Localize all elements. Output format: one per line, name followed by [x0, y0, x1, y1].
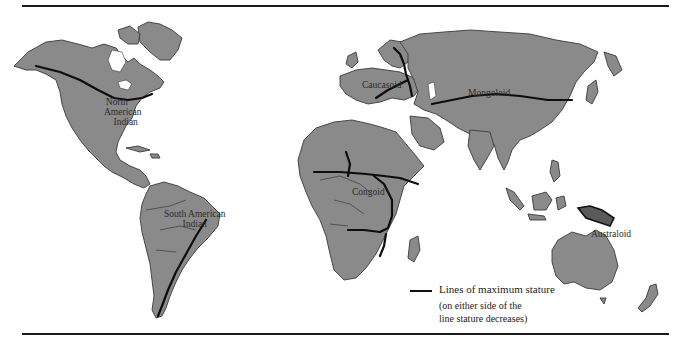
- baffin-island: [118, 26, 140, 44]
- label-mongoloid: Mongoloid: [468, 88, 510, 98]
- legend-note-line: line stature decreases): [439, 312, 527, 325]
- label-line: North: [92, 97, 141, 107]
- india: [468, 130, 494, 170]
- label-south-american-indian: South American Indian: [164, 209, 225, 229]
- borneo: [532, 192, 552, 210]
- world-map: [0, 0, 695, 344]
- java: [528, 214, 546, 220]
- label-line: South American: [164, 209, 225, 219]
- cuba: [126, 146, 150, 152]
- tasmania: [600, 298, 606, 304]
- label-line: American: [104, 107, 141, 117]
- label-caucasoid: Caucasoid: [362, 80, 402, 90]
- legend-note: (on either side of the line stature decr…: [439, 299, 527, 325]
- sumatra: [506, 188, 524, 210]
- label-congoid: Congoid: [352, 187, 385, 197]
- philippines: [550, 160, 560, 182]
- greenland: [138, 22, 182, 60]
- stature-line-legend-icon: [410, 290, 432, 292]
- north-america: [14, 40, 164, 188]
- japan: [586, 80, 598, 104]
- label-line: Indian: [110, 117, 141, 127]
- australia: [552, 230, 618, 290]
- british-isles: [346, 52, 358, 68]
- label-australoid: Australoid: [591, 229, 631, 239]
- africa: [298, 120, 424, 280]
- sulawesi: [556, 196, 566, 210]
- legend-note-line: (on either side of the: [439, 299, 527, 312]
- kamchatka: [604, 52, 622, 76]
- label-north-american-indian: North American Indian: [92, 97, 141, 127]
- arabia: [410, 116, 444, 150]
- madagascar: [408, 236, 420, 262]
- legend-title: Lines of maximum stature: [439, 283, 555, 295]
- label-line: Indian: [164, 219, 225, 229]
- new-guinea: [578, 206, 614, 226]
- new-zealand: [638, 284, 658, 312]
- bottom-rule: [22, 333, 669, 335]
- hispaniola: [150, 154, 160, 158]
